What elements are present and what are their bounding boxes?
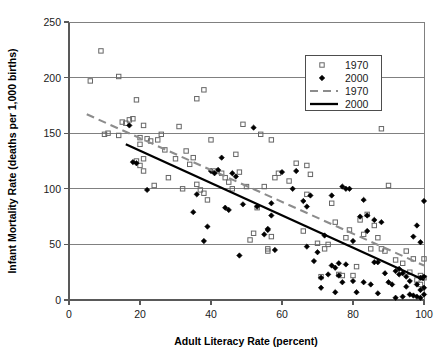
data-point-1970 <box>141 169 145 173</box>
data-point-1970 <box>372 223 376 227</box>
data-point-1970 <box>184 149 188 153</box>
data-point-2000 <box>350 238 355 243</box>
chart-canvas: 050100150200250 020406080100 19702000197… <box>0 0 447 357</box>
data-point-2000 <box>201 238 206 243</box>
x-tick-label-60: 60 <box>276 308 288 320</box>
data-point-1970 <box>333 220 337 224</box>
data-point-1970 <box>351 273 355 277</box>
data-point-1970 <box>227 180 231 184</box>
data-point-2000 <box>375 291 380 296</box>
data-point-2000 <box>340 280 345 285</box>
y-axis-title: Infant Mortality Rate (deaths per 1,000 … <box>6 48 18 273</box>
data-point-1970 <box>117 133 121 137</box>
legend-label-2: 1970 <box>345 85 369 97</box>
data-point-1970 <box>138 142 142 146</box>
data-point-1970 <box>376 236 380 240</box>
data-point-1970 <box>234 152 238 156</box>
data-point-2000 <box>294 168 299 173</box>
data-point-2000 <box>361 197 366 202</box>
data-point-2000 <box>365 228 370 233</box>
data-point-1970 <box>191 155 195 159</box>
data-point-2000 <box>269 213 274 218</box>
data-point-1970 <box>134 98 138 102</box>
data-point-1970 <box>322 247 326 251</box>
x-axis-tick-labels: 020406080100 <box>66 308 433 320</box>
data-point-2000 <box>333 290 338 295</box>
data-point-1970 <box>269 138 273 142</box>
trendline-2000-solid <box>126 144 424 280</box>
data-point-1970 <box>305 163 309 167</box>
data-point-2000 <box>251 125 256 130</box>
x-tick-label-100: 100 <box>415 308 433 320</box>
data-point-2000 <box>329 193 334 198</box>
data-point-2000 <box>411 234 416 239</box>
legend-label-0: 1970 <box>345 59 369 71</box>
data-point-1970 <box>262 184 266 188</box>
x-tick-label-20: 20 <box>134 308 146 320</box>
data-point-1970 <box>361 232 365 236</box>
data-point-2000 <box>400 294 405 299</box>
data-point-1970 <box>202 88 206 92</box>
legend-label-1: 2000 <box>345 72 369 84</box>
data-point-2000 <box>290 186 295 191</box>
data-point-1970 <box>141 157 145 161</box>
x-axis-title: Adult Literacy Rate (percent) <box>174 335 318 347</box>
data-point-2000 <box>219 155 224 160</box>
data-point-1970 <box>241 122 245 126</box>
data-point-2000 <box>382 271 387 276</box>
data-point-1970 <box>173 157 177 161</box>
data-point-2000 <box>372 217 377 222</box>
data-point-1970 <box>251 231 255 235</box>
data-point-1970 <box>141 123 145 127</box>
data-point-2000 <box>237 253 242 258</box>
data-point-1970 <box>195 97 199 101</box>
data-point-2000 <box>262 232 267 237</box>
data-point-1970 <box>354 264 358 268</box>
data-point-2000 <box>315 249 320 254</box>
data-point-1970 <box>166 175 170 179</box>
data-point-2000 <box>343 262 348 267</box>
data-point-1970 <box>287 179 291 183</box>
data-point-1970 <box>205 198 209 202</box>
data-point-2000 <box>304 204 309 209</box>
data-point-1970 <box>308 172 312 176</box>
data-point-1970 <box>393 258 397 262</box>
data-point-2000 <box>279 169 284 174</box>
data-point-1970 <box>401 261 405 265</box>
x-tick-label-0: 0 <box>66 308 72 320</box>
data-point-2000 <box>191 209 196 214</box>
data-point-2000 <box>414 223 419 228</box>
chart-legend: 1970200019702000 <box>305 55 381 110</box>
data-point-2000 <box>407 278 412 283</box>
y-tick-label-50: 50 <box>49 238 61 250</box>
data-point-1970 <box>379 127 383 131</box>
data-point-2000 <box>325 272 330 277</box>
y-tick-label-200: 200 <box>43 72 61 84</box>
data-point-1970 <box>248 238 252 242</box>
data-point-2000 <box>144 187 149 192</box>
x-tick-label-80: 80 <box>347 308 359 320</box>
data-point-2000 <box>404 284 409 289</box>
data-point-2000 <box>318 285 323 290</box>
data-point-2000 <box>301 198 306 203</box>
y-tick-label-100: 100 <box>43 183 61 195</box>
data-point-2000 <box>350 278 355 283</box>
data-point-2000 <box>336 261 341 266</box>
y-tick-label-250: 250 <box>43 16 61 28</box>
data-point-1970 <box>195 182 199 186</box>
data-point-2000 <box>421 198 426 203</box>
data-point-2000 <box>240 202 245 207</box>
series-markers-2000 <box>127 123 427 301</box>
data-point-1970 <box>344 236 348 240</box>
data-point-1970 <box>294 161 298 165</box>
data-point-2000 <box>311 258 316 263</box>
data-point-1970 <box>156 138 160 142</box>
legend-box <box>305 55 381 110</box>
data-point-2000 <box>269 201 274 206</box>
data-point-1970 <box>188 162 192 166</box>
data-point-1970 <box>209 138 213 142</box>
x-tick-label-40: 40 <box>205 308 217 320</box>
data-point-2000 <box>361 280 366 285</box>
y-axis-tick-labels: 050100150200250 <box>43 16 61 306</box>
infant-mortality-literacy-chart: 050100150200250 020406080100 19702000197… <box>0 0 447 357</box>
